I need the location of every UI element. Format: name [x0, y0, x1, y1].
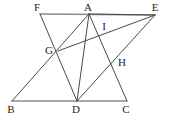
segment-FD: [40, 14, 77, 101]
vertex-label-I: I: [102, 21, 106, 32]
geometry-line-art: [0, 0, 171, 118]
vertex-label-H: H: [118, 57, 126, 68]
segment-layer: [12, 14, 155, 101]
segment-AD: [77, 14, 89, 101]
segment-AB: [12, 14, 89, 101]
vertex-label-E: E: [152, 2, 159, 13]
vertex-label-D: D: [72, 104, 80, 115]
geometry-diagram: F A E G I H B D C: [0, 0, 171, 118]
vertex-label-G: G: [45, 45, 53, 56]
vertex-label-F: F: [34, 2, 40, 13]
vertex-label-A: A: [84, 2, 92, 13]
vertex-label-B: B: [7, 104, 14, 115]
segment-ED: [77, 15, 155, 101]
vertex-label-C: C: [122, 104, 129, 115]
